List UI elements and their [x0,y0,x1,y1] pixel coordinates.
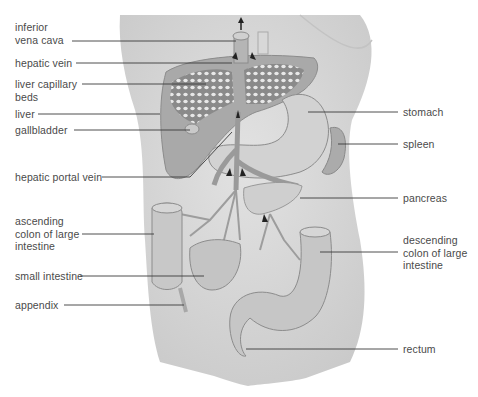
label-gallbladder: gallbladder [15,124,67,137]
label-pancreas: pancreas [403,192,447,205]
label-ascending-colon: ascending colon of large intestine [15,215,79,253]
label-rectum: rectum [403,343,436,356]
label-liver: liver [15,108,35,121]
label-stomach: stomach [403,106,443,119]
label-hepatic-vein: hepatic vein [15,57,72,70]
label-appendix: appendix [15,299,58,312]
label-hepatic-portal-vein: hepatic portal vein [15,171,102,184]
label-spleen: spleen [403,138,435,151]
hepatic-portal-diagram: inferior vena cava hepatic vein liver ca… [0,0,478,397]
label-small-intestine: small intestine [15,270,83,283]
label-descending-colon: descending colon of large intestine [403,234,467,272]
label-liver-capillary-beds: liver capillary beds [15,78,77,103]
label-inferior-vena-cava: inferior vena cava [15,21,64,46]
